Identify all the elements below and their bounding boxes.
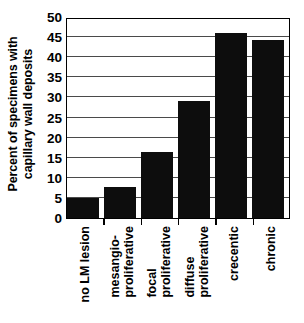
bar-slot	[104, 19, 141, 218]
x-axis-tick-label-line: diffuse	[183, 226, 197, 298]
x-axis-tick-label-line: focal	[145, 226, 159, 298]
bar-slot	[215, 19, 252, 218]
y-axis-tick-label: 45	[47, 31, 62, 45]
x-axis-tick-labels: no LM lesionmesangio-proliferativefocalp…	[66, 226, 290, 321]
bar	[252, 40, 284, 218]
x-axis-tick-label: no LM lesion	[78, 226, 92, 302]
x-axis-tick	[215, 219, 216, 225]
plot-area	[66, 18, 290, 219]
x-axis-tick	[253, 219, 254, 225]
x-axis-tick-label: crecentic	[227, 226, 241, 281]
x-axis-tick-label: chronic	[264, 226, 278, 271]
bar	[104, 187, 136, 218]
bar	[67, 198, 99, 218]
y-axis-title-text: Percent of specimens with capillary wall…	[6, 36, 36, 191]
y-axis-title-line-1: Percent of specimens with	[6, 36, 20, 191]
y-axis-tick-label: 30	[47, 92, 62, 106]
y-axis-tick-label: 15	[47, 152, 62, 166]
bar	[215, 33, 247, 218]
x-axis-label-slot: no LM lesion	[66, 226, 103, 321]
x-axis-label-slot: chronic	[253, 226, 290, 321]
x-axis-tick-label-line: chronic	[264, 226, 278, 271]
x-axis-tick	[103, 219, 104, 225]
x-axis-tick-label-line: proliferative	[122, 226, 136, 298]
y-axis-tick-label: 20	[47, 132, 62, 146]
x-axis-tick	[141, 219, 142, 225]
x-axis-tick-label: mesangio-proliferative	[108, 226, 136, 298]
bar	[141, 152, 173, 218]
x-axis-tick-label-line: mesangio-	[108, 226, 122, 298]
x-axis-tick-label: diffuseproliferative	[183, 226, 211, 298]
x-axis-tick	[178, 219, 179, 225]
x-axis-ticks	[66, 219, 290, 225]
bar-slot	[141, 19, 178, 218]
bar	[178, 101, 210, 218]
bar-slot	[178, 19, 215, 218]
x-axis-tick-label-line: proliferative	[197, 226, 211, 298]
x-axis-tick-label-line: no LM lesion	[78, 226, 92, 302]
x-axis-label-slot: mesangio-proliferative	[103, 226, 140, 321]
x-axis-label-slot: crecentic	[215, 226, 252, 321]
y-axis-tick-label: 25	[47, 112, 62, 126]
y-axis-tick-label: 0	[54, 212, 62, 226]
y-axis-tick-label: 35	[47, 72, 62, 86]
bar-chart-figure: Percent of specimens with capillary wall…	[0, 0, 304, 323]
y-axis-tick-labels: 05101520253035404550	[36, 18, 64, 219]
x-axis-label-slot: focalproliferative	[141, 226, 178, 321]
bar-slot	[252, 19, 289, 218]
x-axis-tick-label-line: proliferative	[159, 226, 173, 298]
x-axis-tick-label-line: crecentic	[227, 226, 241, 281]
bar-series	[67, 19, 289, 218]
x-axis-label-slot: diffuseproliferative	[178, 226, 215, 321]
y-axis-tick-label: 10	[47, 172, 62, 186]
bar-slot	[67, 19, 104, 218]
y-axis-tick-label: 40	[47, 51, 62, 65]
y-axis-tick-label: 5	[54, 192, 62, 206]
y-axis-title-line-2: capillary wall deposits	[21, 36, 36, 191]
y-axis-tick-label: 50	[47, 11, 62, 25]
x-axis-tick-label: focalproliferative	[145, 226, 173, 298]
